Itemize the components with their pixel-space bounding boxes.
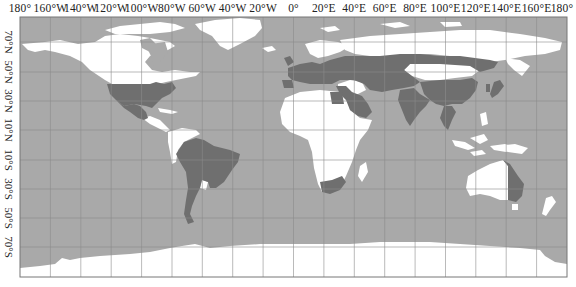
lat-label: 50°S — [3, 207, 15, 229]
lon-label: 120°W — [94, 2, 128, 14]
world-map: 180° 160°W 140°W 120°W 100°W 80°W 60°W 4… — [0, 0, 576, 287]
lon-label: 60°W — [188, 2, 216, 14]
lat-label: 10°N — [3, 118, 15, 141]
lon-label: 40°W — [219, 2, 247, 14]
lon-label: 100°E — [431, 2, 461, 14]
lat-label: 30°N — [3, 89, 15, 112]
lat-label: 70°S — [3, 236, 15, 258]
region-korea — [486, 84, 490, 92]
lon-label: 0° — [288, 2, 299, 14]
lat-label: 10°S — [3, 149, 15, 171]
lon-label: 20°E — [312, 2, 336, 14]
lon-label: 180° — [9, 2, 32, 14]
lon-label: 140°E — [491, 2, 521, 14]
lon-label: 20°W — [249, 2, 277, 14]
lon-label: 80°W — [158, 2, 186, 14]
lat-label: 50°N — [3, 60, 15, 83]
lon-label: 160°E — [522, 2, 552, 14]
lon-label: 100°W — [125, 2, 159, 14]
region-egypt — [330, 92, 344, 104]
lon-label: 80°E — [403, 2, 427, 14]
lon-label: 40°E — [342, 2, 366, 14]
lat-label: 30°S — [3, 178, 15, 200]
lon-label: 60°E — [373, 2, 397, 14]
map-canvas — [0, 0, 576, 287]
lon-label: 160°W — [34, 2, 68, 14]
region-iberia — [282, 80, 294, 88]
lat-label: 70°N — [3, 30, 15, 53]
lon-label: 140°W — [64, 2, 98, 14]
lon-label: 180° — [551, 2, 574, 14]
lon-label: 120°E — [461, 2, 491, 14]
